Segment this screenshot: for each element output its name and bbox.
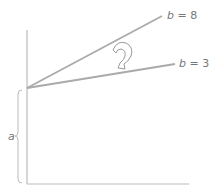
label-b-8: b = 8 [167, 9, 197, 22]
intercept-brace [15, 90, 22, 183]
diagram-canvas: a b = 8 b = 3 [0, 0, 211, 193]
intercept-label: a [8, 130, 15, 143]
curved-arrow-icon [113, 42, 132, 69]
label-b-3: b = 3 [179, 57, 209, 70]
